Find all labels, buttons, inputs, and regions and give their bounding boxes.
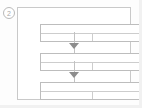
flow-box-2[interactable] xyxy=(40,53,142,71)
flow-box-1[interactable] xyxy=(40,24,142,42)
step-number-marker: 2 xyxy=(3,7,15,19)
box-3-vertical-divider xyxy=(92,91,93,99)
box-2-vertical-divider xyxy=(92,62,93,70)
down-arrow-icon xyxy=(69,72,79,78)
flow-box-3[interactable] xyxy=(40,82,142,100)
page-edge-shading-right xyxy=(139,0,142,108)
down-arrow-icon xyxy=(69,43,79,49)
figure-root: 2 xyxy=(0,0,142,108)
page-edge-shading-bottom xyxy=(0,105,142,108)
box-1-vertical-divider xyxy=(92,33,93,41)
diagram-outer-frame xyxy=(17,7,131,100)
